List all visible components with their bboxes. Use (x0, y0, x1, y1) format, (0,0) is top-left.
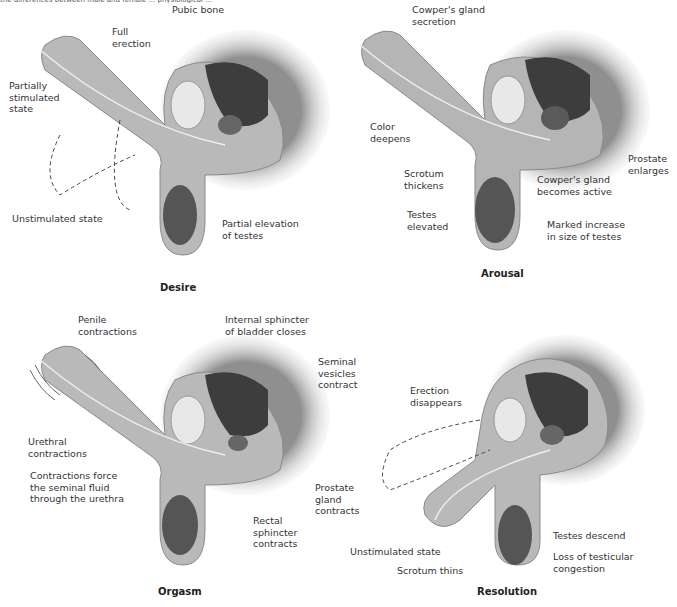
label-partially-stimulated: Partially stimulated state (9, 80, 60, 115)
desire-illustration (0, 10, 340, 300)
title-resolution: Resolution (477, 586, 537, 597)
label-unstimulated-state-res: Unstimulated state (350, 546, 441, 558)
label-full-erection: Full erection (112, 26, 151, 49)
panel-arousal: Cowper's gland secretion Color deepens S… (340, 10, 677, 300)
label-cowpers-secretion: Cowper's gland secretion (412, 4, 485, 27)
title-arousal: Arousal (481, 268, 524, 279)
label-marked-increase: Marked increase in size of testes (547, 219, 625, 242)
label-unstimulated-state: Unstimulated state (12, 213, 103, 225)
label-testes-elevated: Testes elevated (407, 209, 448, 232)
label-internal-sphincter: Internal sphincter of bladder closes (225, 314, 309, 337)
label-prostate-enlarges: Prostate enlarges (628, 153, 669, 176)
label-contractions-force: Contractions force the seminal fluid thr… (30, 470, 124, 505)
label-color-deepens: Color deepens (370, 121, 411, 144)
label-testes-descend: Testes descend (553, 530, 625, 542)
label-loss-congestion: Loss of testicular congestion (553, 551, 634, 574)
cut-off-caption: the differences between male and female … (0, 0, 677, 3)
panel-orgasm: Penile contractions Internal sphincter o… (0, 310, 340, 607)
label-penile-contractions: Penile contractions (78, 314, 137, 337)
label-pubic-bone: Pubic bone (172, 4, 224, 16)
panel-resolution: Erection disappears Unstimulated state S… (340, 310, 677, 607)
title-desire: Desire (160, 282, 196, 293)
label-scrotum-thickens: Scrotum thickens (404, 168, 444, 191)
label-rectal-sphincter: Rectal sphincter contracts (253, 515, 297, 550)
panel-desire: Pubic bone Full erection Partially stimu… (0, 10, 340, 300)
arousal-illustration (340, 10, 677, 300)
title-orgasm: Orgasm (158, 586, 202, 597)
label-scrotum-thins: Scrotum thins (397, 565, 463, 577)
label-urethral-contractions: Urethral contractions (28, 436, 87, 459)
label-erection-disappears: Erection disappears (410, 385, 462, 408)
label-cowpers-active: Cowper's gland becomes active (537, 174, 612, 197)
label-partial-elevation: Partial elevation of testes (222, 218, 299, 241)
